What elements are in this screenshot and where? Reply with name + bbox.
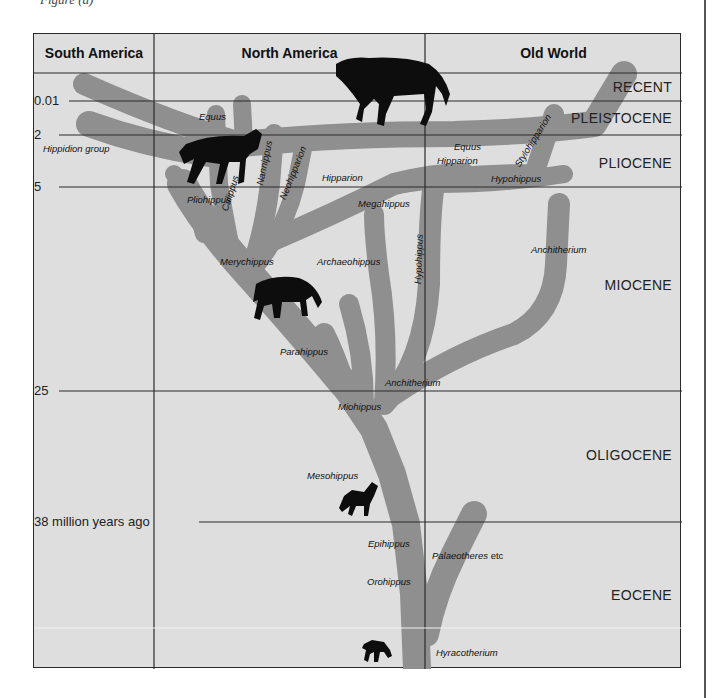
label-mesohippus: Mesohippus xyxy=(307,470,358,481)
label-epihippus: Epihippus xyxy=(368,538,410,549)
column-header-north-america: North America xyxy=(154,34,425,72)
epoch-miocene: MIOCENE xyxy=(605,277,672,293)
label-hipparion-na: Hipparion xyxy=(322,172,363,183)
label-merychippus: Merychippus xyxy=(220,256,274,267)
label-hypohippus-na: Hypohippus xyxy=(412,234,425,285)
label-palaeotheres-name: Palaeotheres xyxy=(432,550,488,561)
label-hypohippus-ow: Hypohippus xyxy=(491,173,541,184)
label-equus-ow: Equus xyxy=(454,141,481,152)
tick-38: 38 million years ago xyxy=(34,514,150,529)
label-orohippus: Orohippus xyxy=(367,576,411,587)
tick-5: 5 xyxy=(34,179,41,194)
label-anchitherium-na: Anchitherium xyxy=(385,377,440,388)
hyracotherium-silhouette xyxy=(362,640,392,662)
figure-caption: Figure (a) xyxy=(40,0,93,8)
label-parahippus: Parahippus xyxy=(280,346,328,357)
label-megahippus: Megahippus xyxy=(358,198,410,209)
tick-0-01: 0.01 xyxy=(34,93,59,108)
label-palaeotheres-etc: etc xyxy=(491,550,504,561)
epoch-pliocene: PLIOCENE xyxy=(599,155,672,171)
epoch-recent: RECENT xyxy=(613,79,672,95)
label-equus-na: Equus xyxy=(199,111,226,122)
label-miohippus: Miohippus xyxy=(338,401,381,412)
label-archaeohippus: Archaeohippus xyxy=(317,256,380,267)
label-palaeotheres: Palaeotheres etc xyxy=(432,550,503,561)
label-anchitherium-ow: Anchitherium xyxy=(531,244,586,255)
epoch-pleistocene: PLEISTOCENE xyxy=(571,110,672,126)
page-margin-rule xyxy=(704,0,706,698)
column-header-old-world: Old World xyxy=(425,34,682,72)
tick-2: 2 xyxy=(34,127,41,142)
column-header-south-america: South America xyxy=(34,34,154,72)
tick-25: 25 xyxy=(34,383,48,398)
epoch-eocene: EOCENE xyxy=(611,587,672,603)
phylogeny-graphic xyxy=(34,34,682,669)
label-hippidion-group: Hippidion group xyxy=(43,143,110,154)
horse-evolution-diagram: South America North America Old World 0.… xyxy=(33,33,681,668)
label-hyracotherium: Hyracotherium xyxy=(436,647,498,658)
epoch-oligocene: OLIGOCENE xyxy=(586,447,672,463)
phylogeny-branches xyxy=(84,74,624,669)
mesohippus-silhouette xyxy=(339,482,378,516)
label-hipparion-ow: Hipparion xyxy=(437,155,478,166)
